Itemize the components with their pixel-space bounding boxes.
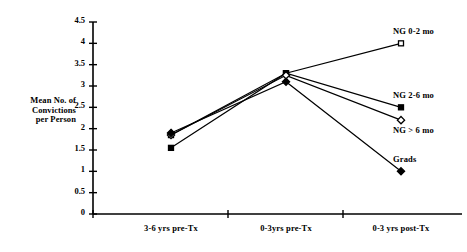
y-axis-tick-label: 4.5 [59,16,85,26]
y-axis-tick-label: 2 [59,123,85,133]
chart-axes [89,22,462,218]
y-axis-tick-label: 4 [59,37,85,47]
x-axis-tick-label: 0-3yrs pre-Tx [226,224,346,234]
series-label: NG 2-6 mo [393,91,434,101]
y-axis-tick-label: 1.5 [59,144,85,154]
y-axis-tick-label: 2.5 [59,101,85,111]
series-marker [169,145,174,150]
series-label: NG > 6 mo [393,126,434,136]
y-axis-tick-label: 0 [59,208,85,218]
series-label: Grads [393,155,416,165]
x-axis-tick-label: 0-3 yrs post-Tx [341,224,461,234]
y-axis-tick-label: 0.5 [59,187,85,197]
x-axis-tick-label: 3-6 yrs pre-Tx [111,224,231,234]
series-marker [399,105,404,110]
series-marker [399,41,404,46]
chart-container: Mean No. of Convictions per Person 00.51… [0,0,467,252]
series-line [171,43,401,135]
chart-series [167,41,404,175]
series-label: NG 0-2 mo [393,27,434,37]
y-axis-tick-label: 3 [59,80,85,90]
y-axis-tick-label: 1 [59,165,85,175]
series-marker [397,117,404,124]
series-line [171,82,401,172]
y-axis-tick-label: 3.5 [59,59,85,69]
